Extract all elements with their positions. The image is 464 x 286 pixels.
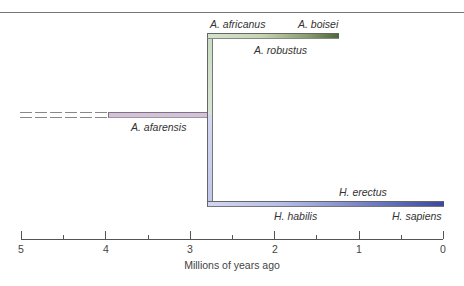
top-rule — [0, 12, 464, 13]
afarensis-branch — [108, 112, 209, 118]
tick-label-0: 0 — [433, 243, 453, 255]
homo-branch — [207, 201, 444, 207]
x-axis-title: Millions of years ago — [0, 259, 464, 271]
tick-label-4: 4 — [96, 243, 116, 255]
robustus-branch — [207, 33, 339, 39]
label-sapiens: H. sapiens — [392, 210, 442, 222]
trunk-upper — [207, 33, 213, 115]
trunk-lower — [207, 115, 213, 207]
label-robustus: A. robustus — [254, 44, 307, 56]
tick-label-3: 3 — [180, 243, 200, 255]
label-habilis: H. habilis — [274, 210, 317, 222]
tick-label-2: 2 — [265, 243, 285, 255]
x-axis-line — [21, 239, 443, 240]
label-boisei: A. boisei — [298, 18, 338, 30]
label-erectus: H. erectus — [339, 186, 387, 198]
label-afarensis: A. afarensis — [131, 121, 186, 133]
tick-label-5: 5 — [11, 243, 31, 255]
label-africanus: A. africanus — [210, 18, 265, 30]
tick-label-1: 1 — [349, 243, 369, 255]
